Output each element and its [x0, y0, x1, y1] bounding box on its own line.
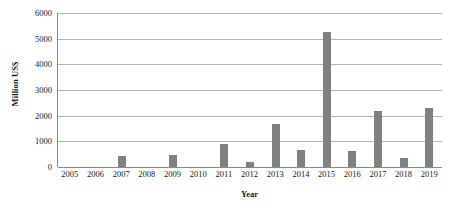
bar-slot [416, 13, 442, 167]
bar[interactable] [348, 151, 356, 167]
x-axis-tick-label: 2013 [262, 170, 288, 179]
bar[interactable] [220, 144, 228, 167]
bar-slot [84, 13, 110, 167]
bar-slot [58, 13, 84, 167]
y-axis-tick-label: 0 [22, 163, 52, 172]
y-axis-tick-label: 3000 [22, 86, 52, 95]
bar[interactable] [246, 162, 254, 167]
y-axis-tick-label: 6000 [22, 9, 52, 18]
x-axis-tick-label: 2015 [314, 170, 340, 179]
bar-slot [288, 13, 314, 167]
bar[interactable] [425, 108, 433, 167]
x-axis-tick-label: 2008 [134, 170, 160, 179]
y-axis-tick-label: 4000 [22, 60, 52, 69]
axis-baseline [58, 167, 442, 168]
x-axis-tick-label: 2012 [237, 170, 263, 179]
bar[interactable] [400, 158, 408, 167]
bar-slot [340, 13, 366, 167]
plot-area [57, 13, 442, 167]
bar[interactable] [272, 124, 280, 167]
y-axis-tick-label: 5000 [22, 34, 52, 43]
x-axis-tick-label: 2018 [391, 170, 417, 179]
y-axis-tick-label: 1000 [22, 137, 52, 146]
bar-chart: Million US$ 0100020003000400050006000 20… [0, 0, 451, 210]
bar-slot [186, 13, 212, 167]
x-axis-tick-label: 2014 [288, 170, 314, 179]
x-axis-tick-label: 2011 [211, 170, 237, 179]
bar-slot [365, 13, 391, 167]
y-axis-tick-label: 2000 [22, 111, 52, 120]
y-axis-title: Million US$ [8, 0, 22, 167]
bar-slot [135, 13, 161, 167]
bar[interactable] [297, 150, 305, 167]
bar-slot [237, 13, 263, 167]
x-axis-tick-label: 2017 [365, 170, 391, 179]
bars-layer [58, 13, 442, 167]
bar[interactable] [169, 155, 177, 167]
x-axis-tick-label: 2009 [160, 170, 186, 179]
bar-slot [314, 13, 340, 167]
bar[interactable] [323, 32, 331, 167]
bar-slot [212, 13, 238, 167]
x-axis-tick-label: 2006 [83, 170, 109, 179]
bar-slot [391, 13, 417, 167]
x-axis-tick-labels: 2005200620072008200920102011201220132014… [57, 170, 442, 179]
x-axis-tick-label: 2016 [339, 170, 365, 179]
bar-slot [263, 13, 289, 167]
x-axis-tick-label: 2005 [57, 170, 83, 179]
bar[interactable] [118, 156, 126, 167]
x-axis-tick-label: 2010 [185, 170, 211, 179]
bar-slot [160, 13, 186, 167]
x-axis-title: Year [57, 189, 442, 199]
bar-slot [109, 13, 135, 167]
x-axis-tick-label: 2019 [416, 170, 442, 179]
bar[interactable] [374, 111, 382, 167]
x-axis-tick-label: 2007 [108, 170, 134, 179]
y-axis-title-label: Million US$ [10, 61, 20, 106]
y-axis-tick-labels: 0100020003000400050006000 [22, 13, 52, 167]
